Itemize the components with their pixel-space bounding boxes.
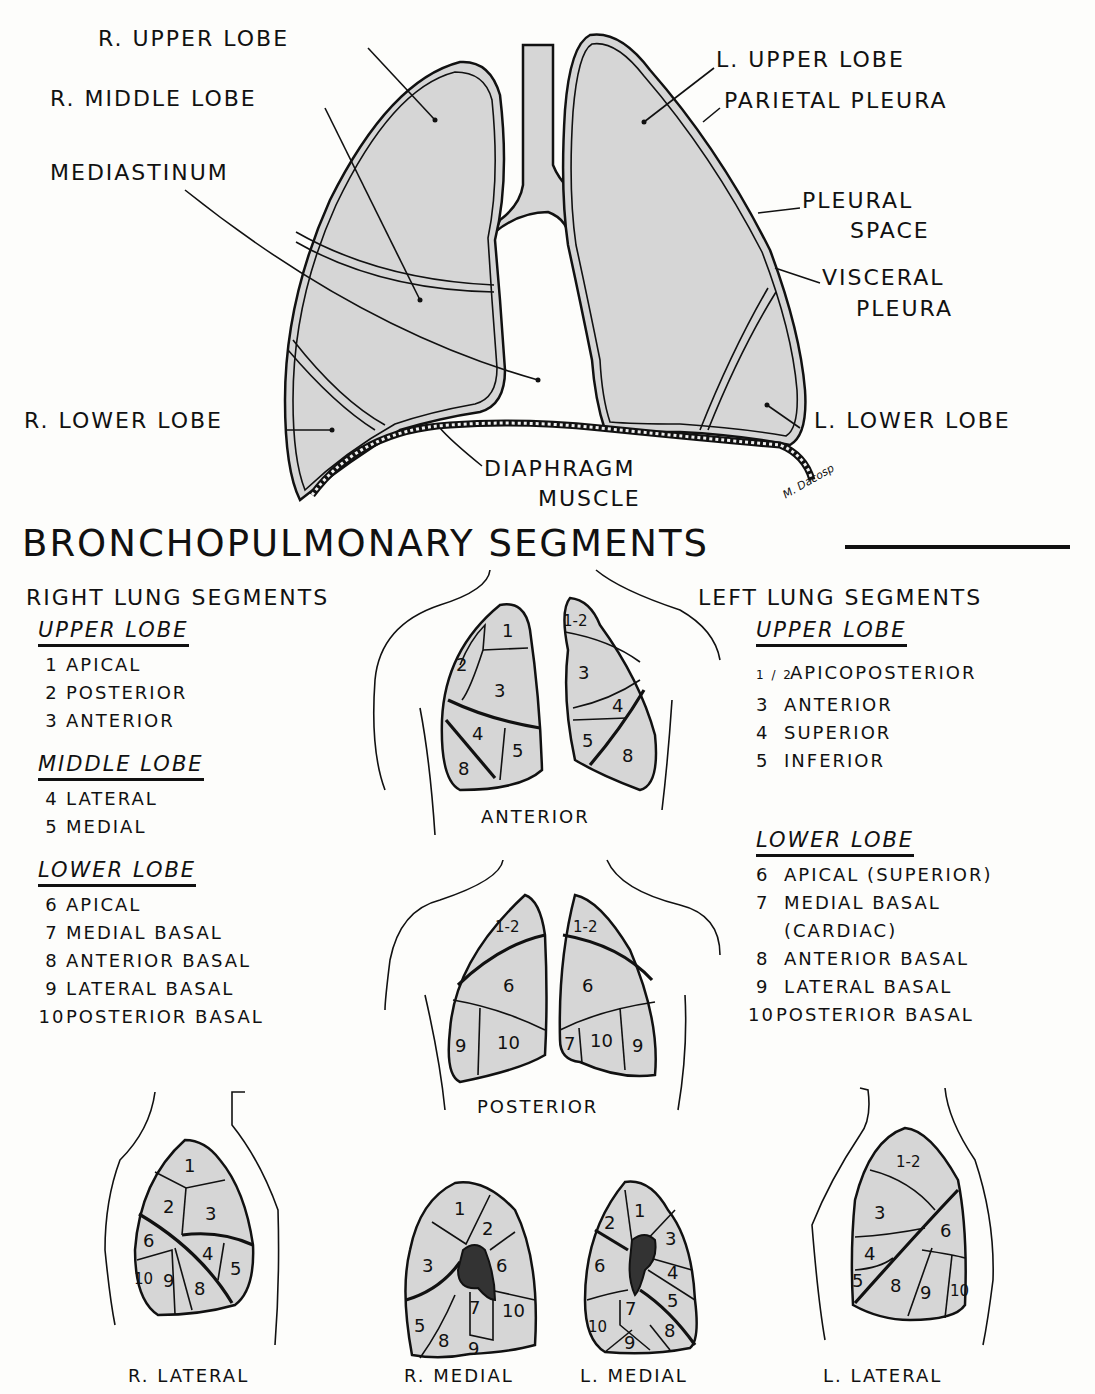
view-label-r-lateral: R. LATERAL — [128, 1365, 249, 1386]
segment-name: ANTERIOR — [66, 710, 175, 731]
left-upper-lobe-group: UPPER LOBE 1 / 2APICOPOSTERIOR 3ANTERIOR… — [756, 618, 977, 775]
segment-name: MEDIAL BASAL — [66, 922, 223, 943]
segment-number: 7 — [564, 1033, 575, 1054]
right-upper-lobe-group: UPPER LOBE 1APICAL 2POSTERIOR 3ANTERIOR — [38, 618, 189, 735]
segment-number: 8 — [664, 1320, 675, 1341]
segment-name: MEDIAL BASAL — [784, 892, 941, 913]
label-r-lower-lobe: R. LOWER LOBE — [24, 408, 223, 433]
segment-number: 10 — [497, 1032, 520, 1053]
segment-number: 10 — [588, 1318, 607, 1336]
lobe-heading: UPPER LOBE — [756, 618, 907, 647]
segment-number: 5 — [414, 1315, 425, 1336]
view-label-posterior: POSTERIOR — [477, 1096, 598, 1117]
segment-name: ANTERIOR BASAL — [66, 950, 251, 971]
segment-number: 9 — [163, 1270, 174, 1291]
label-pleura: PLEURA — [856, 296, 953, 321]
segment-name: POSTERIOR BASAL — [776, 1004, 974, 1025]
segment-name: APICAL — [66, 894, 141, 915]
lobe-heading: MIDDLE LOBE — [38, 752, 204, 781]
segment-number: 2 — [456, 654, 467, 675]
segment-number: 8 — [890, 1275, 901, 1296]
segment-number: 6 — [143, 1230, 154, 1251]
segment-number: 9 — [624, 1332, 635, 1353]
view-label-anterior: ANTERIOR — [481, 806, 590, 827]
segment-number: 8 — [438, 1330, 449, 1351]
segment-name: ANTERIOR BASAL — [784, 948, 969, 969]
segment-number: 1 — [634, 1200, 645, 1221]
segment-number: 8 — [194, 1278, 205, 1299]
segment-name: SUPERIOR — [784, 722, 891, 743]
label-muscle: MUSCLE — [538, 486, 641, 511]
segment-number: 4 — [667, 1262, 678, 1283]
segment-name: POSTERIOR — [66, 682, 187, 703]
segment-number: 10 — [502, 1300, 525, 1321]
right-lower-lobe-group: LOWER LOBE 6APICAL 7MEDIAL BASAL 8ANTERI… — [38, 858, 264, 1031]
label-pleural: PLEURAL — [802, 188, 913, 213]
segment-number: 10 — [134, 1270, 153, 1288]
segment-name: (CARDIAC) — [784, 920, 897, 941]
l-lateral-view — [812, 1088, 993, 1345]
right-lung-heading: RIGHT LUNG SEGMENTS — [26, 585, 329, 610]
segment-name: ANTERIOR — [784, 694, 893, 715]
right-middle-lobe-group: MIDDLE LOBE 4LATERAL 5MEDIAL — [38, 752, 204, 841]
segment-number: 3 — [874, 1202, 885, 1223]
segment-name: INFERIOR — [784, 750, 885, 771]
segment-name: POSTERIOR BASAL — [66, 1006, 264, 1027]
left-lower-lobe-group: LOWER LOBE 6APICAL (SUPERIOR) 7MEDIAL BA… — [756, 828, 992, 1029]
trachea — [495, 45, 570, 245]
segment-number: 7 — [625, 1298, 636, 1319]
segment-number: 6 — [594, 1255, 605, 1276]
segment-number: 5 — [230, 1258, 241, 1279]
view-label-r-medial: R. MEDIAL — [404, 1365, 514, 1386]
segment-name: LATERAL BASAL — [784, 976, 952, 997]
left-lung-heading: LEFT LUNG SEGMENTS — [698, 585, 982, 610]
segment-number: 5 — [582, 730, 593, 751]
segment-number: 2 — [163, 1196, 174, 1217]
segment-number: 4 — [612, 695, 623, 716]
segment-number: 9 — [468, 1338, 479, 1359]
segment-number: 4 — [864, 1243, 875, 1264]
segment-number: 6 — [582, 975, 593, 996]
segment-name: LATERAL BASAL — [66, 978, 234, 999]
segment-number: 1 — [502, 620, 513, 641]
r-lateral-view — [105, 1092, 279, 1345]
label-space: SPACE — [850, 218, 930, 243]
segment-number: 5 — [667, 1290, 678, 1311]
anterior-view — [374, 570, 720, 835]
segment-number: 4 — [202, 1243, 213, 1264]
label-diaphragm: DIAPHRAGM — [484, 456, 635, 481]
segment-name: APICOPOSTERIOR — [790, 662, 977, 683]
segment-number: 6 — [503, 975, 514, 996]
segment-number: 6 — [496, 1255, 507, 1276]
segment-number: 5 — [852, 1270, 863, 1291]
label-mediastinum: MEDIASTINUM — [50, 160, 229, 185]
segment-number: 8 — [458, 758, 469, 779]
segment-number: 10 — [950, 1282, 969, 1300]
segment-number: 7 — [469, 1297, 480, 1318]
label-l-upper-lobe: L. UPPER LOBE — [716, 47, 905, 72]
posterior-view — [385, 860, 720, 1110]
segment-number: 1-2 — [563, 612, 588, 630]
segment-number: 2 — [604, 1212, 615, 1233]
segment-number: 9 — [455, 1035, 466, 1056]
section-title: BRONCHOPULMONARY SEGMENTS — [22, 522, 709, 565]
label-r-middle-lobe: R. MIDDLE LOBE — [50, 86, 257, 111]
segment-number: 3 — [578, 662, 589, 683]
label-l-lower-lobe: L. LOWER LOBE — [814, 408, 1011, 433]
segment-number: 1-2 — [495, 918, 520, 936]
segment-number: 9 — [632, 1035, 643, 1056]
segment-number: 10 — [590, 1030, 613, 1051]
segment-number: 1 — [184, 1155, 195, 1176]
segment-number: 3 — [422, 1255, 433, 1276]
label-r-upper-lobe: R. UPPER LOBE — [98, 26, 289, 51]
lobe-heading: LOWER LOBE — [38, 858, 196, 887]
segment-name: MEDIAL — [66, 816, 146, 837]
segment-number: 2 — [482, 1218, 493, 1239]
label-parietal-pleura: PARIETAL PLEURA — [724, 88, 948, 113]
lobe-heading: UPPER LOBE — [38, 618, 189, 647]
view-label-l-medial: L. MEDIAL — [580, 1365, 688, 1386]
segment-number: 8 — [622, 745, 633, 766]
segment-number: 1-2 — [573, 918, 598, 936]
segment-number: 3 — [205, 1203, 216, 1224]
segment-number: 1 — [454, 1198, 465, 1219]
